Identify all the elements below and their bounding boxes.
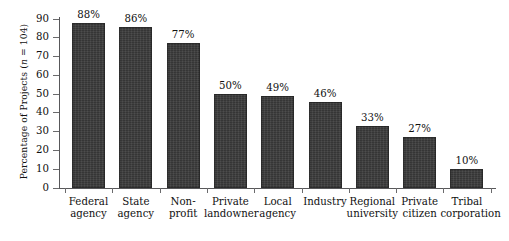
x-axis-category-label-line: Federal — [62, 196, 115, 208]
y-axis-tick-mark — [53, 94, 59, 95]
y-axis-tick-mark — [53, 37, 59, 38]
x-axis-category-label: Privatecitizen — [393, 196, 446, 219]
x-axis-category-label: Federalagency — [62, 196, 115, 219]
x-axis-tick-mark — [491, 188, 492, 193]
x-axis-category-label: Stateagency — [109, 196, 162, 219]
bar-chart-figure: Percentage of Projects (n = 104) 9080706… — [0, 0, 509, 241]
x-axis-category-label-line: Regional — [346, 196, 399, 208]
y-axis-tick-label: 50 — [20, 87, 49, 101]
y-axis-tick-mark — [53, 112, 59, 113]
x-axis-category-label-line: Industry — [299, 196, 352, 208]
bar-value-label: 27% — [394, 123, 445, 135]
bar-value-label: 46% — [300, 88, 351, 100]
y-axis-tick-label: 60 — [20, 68, 49, 82]
x-axis-category-label-line: agency — [109, 208, 162, 220]
bar-value-label: 49% — [252, 82, 303, 94]
bar — [261, 96, 294, 188]
bar — [72, 23, 105, 188]
y-axis-tick-mark — [53, 169, 59, 170]
x-axis-category-label-line: State — [109, 196, 162, 208]
bar-value-label: 50% — [205, 80, 256, 92]
x-axis-category-label-line: Local — [251, 196, 304, 208]
bar — [167, 43, 200, 188]
x-axis-category-label: Regionaluniversity — [346, 196, 399, 219]
x-axis-tick-mark — [302, 188, 303, 193]
x-axis-category-label-line: Tribal — [440, 196, 493, 208]
x-axis-tick-mark — [207, 188, 208, 193]
y-axis-tick-label: 20 — [20, 143, 49, 157]
x-axis-category-label-line: landowner — [204, 208, 257, 220]
y-axis-tick-label: 80 — [20, 30, 49, 44]
x-axis-category-label-line: Private — [204, 196, 257, 208]
x-axis-category-label: Localagency — [251, 196, 304, 219]
bar-value-label: 77% — [158, 29, 209, 41]
x-axis-category-label: Tribalcorporation — [440, 196, 493, 219]
bar — [356, 126, 389, 188]
x-axis-line — [59, 188, 496, 189]
y-axis-tick-label: 30 — [20, 124, 49, 138]
y-axis-tick-label: 70 — [20, 49, 49, 63]
y-axis-tick-mark — [53, 19, 59, 20]
x-axis-category-label-line: agency — [62, 208, 115, 220]
x-axis-tick-mark — [349, 188, 350, 193]
bar — [450, 169, 483, 188]
bar-value-label: 10% — [441, 155, 492, 167]
y-axis-tick-mark — [53, 75, 59, 76]
x-axis-tick-mark — [160, 188, 161, 193]
x-axis-category-label-line: Non- — [157, 196, 210, 208]
x-axis-category-label: Non-profit — [157, 196, 210, 219]
x-axis-tick-mark — [396, 188, 397, 193]
bar — [403, 137, 436, 188]
x-axis-tick-mark — [65, 188, 66, 193]
x-axis-category-label-line: Private — [393, 196, 446, 208]
y-axis-tick-mark — [53, 188, 59, 189]
y-axis-tick-mark — [53, 150, 59, 151]
x-axis-category-label: Industry — [299, 196, 352, 208]
x-axis-category-label-line: agency — [251, 208, 304, 220]
y-axis-tick-mark — [53, 131, 59, 132]
bar — [309, 102, 342, 188]
x-axis-category-label-line: citizen — [393, 208, 446, 220]
y-axis-tick-label: 10 — [20, 162, 49, 176]
bar-value-label: 33% — [347, 112, 398, 124]
x-axis-tick-mark — [443, 188, 444, 193]
x-axis-tick-mark — [254, 188, 255, 193]
y-axis-line — [59, 17, 60, 189]
y-axis-tick-label: 90 — [20, 12, 49, 26]
y-axis-tick-mark — [53, 56, 59, 57]
bar — [119, 27, 152, 188]
y-axis-tick-label: 0 — [20, 181, 49, 195]
x-axis-tick-mark — [112, 188, 113, 193]
bar-value-label: 88% — [63, 9, 114, 21]
bar — [214, 94, 247, 188]
y-axis-tick-label: 40 — [20, 105, 49, 119]
x-axis-category-label-line: university — [346, 208, 399, 220]
x-axis-category-label-line: corporation — [440, 208, 493, 220]
bar-value-label: 86% — [110, 13, 161, 25]
x-axis-category-label: Privatelandowner — [204, 196, 257, 219]
x-axis-category-label-line: profit — [157, 208, 210, 220]
